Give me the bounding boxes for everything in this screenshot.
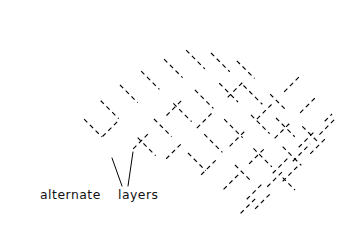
figure-container: alternatelayers [0, 0, 352, 243]
label-layers: layers [118, 187, 159, 202]
woven-lattice-diagram: alternatelayers [0, 0, 352, 243]
label-alternate: alternate [40, 187, 101, 202]
